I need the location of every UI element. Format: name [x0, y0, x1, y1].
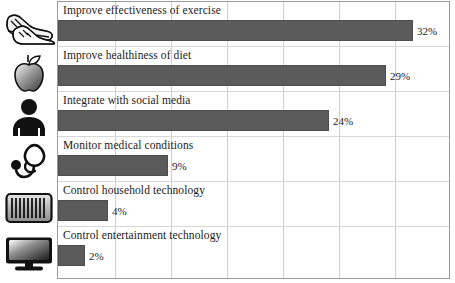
- bar[interactable]: [58, 110, 329, 131]
- bar[interactable]: [58, 155, 168, 176]
- running-shoes-icon: [2, 6, 56, 50]
- horizontal-bar-chart: Improve effectiveness of exercise 32% Im…: [0, 0, 455, 283]
- category-label: Control household technology: [63, 183, 205, 197]
- category-icon-column: [0, 0, 57, 283]
- bar-group: 9%: [58, 155, 187, 176]
- category-label: Control entertainment technology: [63, 228, 221, 242]
- bar[interactable]: [58, 245, 85, 266]
- category-label: Integrate with social media: [63, 93, 191, 107]
- bar-group: 32%: [58, 20, 437, 41]
- bar-value-label: 4%: [112, 205, 127, 217]
- person-icon: [2, 96, 56, 140]
- bar-value-label: 24%: [333, 115, 353, 127]
- bar-value-label: 9%: [172, 160, 187, 172]
- bar[interactable]: [58, 20, 413, 41]
- bar-row: Control household technology 4%: [58, 182, 449, 227]
- plot-area: Improve effectiveness of exercise 32% Im…: [57, 1, 450, 279]
- bar-value-label: 29%: [390, 70, 410, 82]
- stethoscope-icon: [2, 141, 56, 185]
- bar-group: 4%: [58, 200, 127, 221]
- bar-row: Improve effectiveness of exercise 32%: [58, 2, 449, 47]
- radiator-icon: [2, 186, 56, 230]
- bar-row: Improve healthiness of diet 29%: [58, 47, 449, 92]
- bar[interactable]: [58, 200, 108, 221]
- category-label: Improve healthiness of diet: [63, 48, 191, 62]
- category-label: Monitor medical conditions: [63, 138, 193, 152]
- bar-row: Monitor medical conditions 9%: [58, 137, 449, 182]
- bar-group: 2%: [58, 245, 104, 266]
- bar-value-label: 2%: [89, 250, 104, 262]
- apple-icon: [2, 51, 56, 95]
- category-label: Improve effectiveness of exercise: [63, 3, 221, 17]
- bar-row: Control entertainment technology 2%: [58, 227, 449, 272]
- bar-group: 29%: [58, 65, 410, 86]
- bar-group: 24%: [58, 110, 353, 131]
- bar-row: Integrate with social media 24%: [58, 92, 449, 137]
- bar[interactable]: [58, 65, 386, 86]
- bar-value-label: 32%: [417, 25, 437, 37]
- television-icon: [2, 232, 56, 276]
